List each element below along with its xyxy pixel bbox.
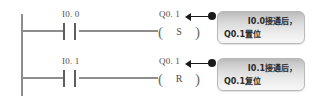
rung-1-callout-line-1: I0.0接通后， (223, 15, 299, 28)
rung-2-coil-reset[interactable]: ( R ) (158, 70, 200, 88)
leader-dot-icon (208, 12, 216, 20)
contact-bar-right (74, 23, 76, 40)
contact-bar-right (74, 70, 76, 87)
rung-2-callout-box: I0.1接通后， Q0.1复位 (217, 58, 305, 91)
coil-letter-s: S (158, 26, 200, 38)
rung-2-leader-line (185, 59, 216, 68)
rung-2-wire-right (79, 77, 158, 79)
rung-1-wire-right (79, 30, 158, 32)
ladder-diagram-canvas: I0. 0 ( S ) Q0. 1 I0.0接通后， Q0.1置位 (0, 0, 312, 102)
coil-letter-r: R (158, 73, 200, 85)
rung-1-callout-box: I0.0接通后， Q0.1置位 (217, 11, 305, 44)
rung-1-contact-i00[interactable] (63, 23, 79, 40)
rung-1-coil-label: Q0. 1 (159, 9, 180, 20)
left-power-rail (21, 14, 23, 96)
rung-2-coil-label: Q0. 1 (159, 56, 180, 67)
rung-1-wire-left (22, 30, 63, 32)
rung-2-callout-line-1: I0.1接通后， (223, 62, 299, 75)
contact-bar-left (63, 70, 65, 87)
contact-bar-left (63, 23, 65, 40)
coil-paren-right: ) (195, 70, 200, 88)
rung-1-contact-label: I0. 0 (62, 9, 80, 20)
rung-1-callout-line-2: Q0.1置位 (223, 28, 299, 41)
rung-2-callout-line-2: Q0.1复位 (223, 75, 299, 88)
coil-paren-right: ) (195, 23, 200, 41)
rung-2-wire-left (22, 77, 63, 79)
rung-1-coil-set[interactable]: ( S ) (158, 23, 200, 41)
rung-1-leader-line (185, 12, 216, 21)
rung-2-contact-i01[interactable] (63, 70, 79, 87)
rung-2-contact-label: I0. 1 (62, 56, 80, 67)
leader-dot-icon (208, 59, 216, 67)
